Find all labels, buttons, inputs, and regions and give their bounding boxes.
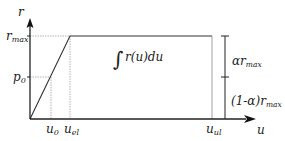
x-axis-label: u — [257, 123, 265, 137]
r-max-label: rmax — [6, 29, 29, 44]
uul-label: uul — [206, 122, 222, 137]
diagram-canvas: r u rmax p0 u0 uel uul ∫ r(u)du αrmax (1… — [0, 0, 285, 141]
y-axis-label: r — [18, 5, 25, 19]
integral-sign: ∫ — [113, 47, 123, 71]
integral-label: r(u)du — [125, 50, 163, 64]
alpha-rmax-label: αrmax — [232, 54, 262, 69]
p0-label: p0 — [13, 70, 26, 85]
u0-label: u0 — [46, 122, 59, 137]
one-minus-alpha-rmax-label: (1-α)rmax — [231, 94, 282, 109]
uel-label: uel — [64, 122, 79, 137]
